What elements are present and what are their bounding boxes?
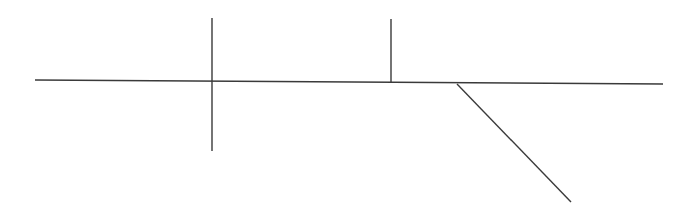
diagram-svg <box>0 0 698 211</box>
diagonal-line <box>457 84 571 202</box>
line-diagram <box>0 0 698 211</box>
main-horizontal-line <box>35 80 663 84</box>
